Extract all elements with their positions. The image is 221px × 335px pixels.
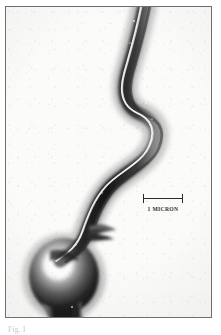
specimen-illustration (6, 7, 211, 317)
scale-bar-group: 1 MICRON (140, 194, 186, 212)
scale-bar-label: 1 MICRON (140, 206, 186, 212)
cell-body (24, 235, 104, 317)
scale-bar-cap-right (182, 194, 183, 203)
micrograph-image (6, 7, 211, 317)
photographic-plate (5, 6, 212, 318)
figure-caption: Fig. 1 (8, 324, 208, 335)
lateral-protrusion (86, 225, 116, 241)
scale-bar (140, 194, 186, 203)
micrograph-figure: 1 MICRON Fig. 1 (0, 0, 221, 335)
scale-bar-rule (143, 198, 183, 199)
figure-caption-text: Fig. 1 (8, 324, 208, 335)
